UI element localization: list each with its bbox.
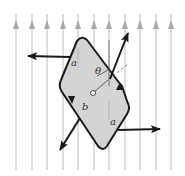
pivot-point — [91, 91, 96, 96]
arrow-up-icon — [29, 20, 35, 29]
arrow-up-icon — [44, 20, 50, 29]
arrow-up-icon — [75, 20, 81, 29]
arrow-up-icon — [168, 20, 174, 29]
arrow-up-icon — [60, 20, 66, 29]
arrow-up-icon — [122, 20, 128, 29]
side-a-top-label: a — [71, 57, 77, 68]
arrow-up-icon — [137, 20, 143, 29]
arrow-up-icon — [91, 20, 97, 29]
side-a-bottom-label: a — [110, 116, 116, 127]
arrow-up-icon — [106, 20, 112, 29]
right-force-arrow — [118, 129, 160, 130]
arrow-up-icon — [153, 20, 159, 29]
torque-diagram: a θ b a — [0, 0, 185, 176]
angle-theta-label: θ — [95, 65, 101, 76]
side-b-label: b — [82, 101, 88, 112]
left-force-arrow — [28, 56, 70, 57]
arrow-up-icon — [13, 20, 19, 29]
